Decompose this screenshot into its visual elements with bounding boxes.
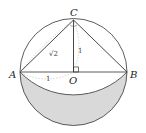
- measure-brace-co: [74, 22, 79, 70]
- label-b: B: [129, 69, 137, 80]
- segment-cb: [74, 20, 128, 72]
- measure-co: 1: [78, 47, 82, 55]
- measure-ac: √2: [49, 50, 58, 58]
- geometry-diagram: C A B O √2 1 1: [0, 0, 146, 133]
- label-a: A: [8, 69, 16, 80]
- segment-ca: [20, 20, 74, 72]
- label-o: O: [69, 75, 77, 86]
- measure-ao: 1: [46, 75, 50, 83]
- label-c: C: [70, 7, 78, 18]
